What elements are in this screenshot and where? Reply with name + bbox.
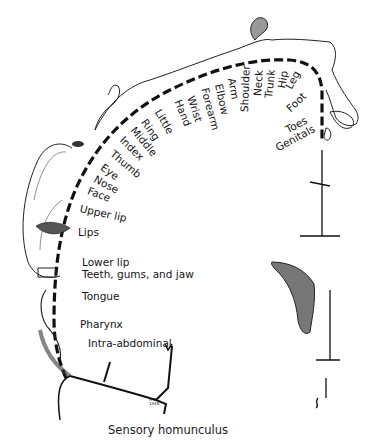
figure-caption: Sensory homunculus — [108, 423, 228, 437]
nerve-branch-left — [58, 376, 70, 420]
initials-line-2: 1948 — [149, 402, 161, 406]
genitals-shape — [324, 128, 331, 140]
visceral-shape — [271, 262, 314, 334]
sensory-homunculus-figure: Toes Genitals Foot Leg Hip Trunk Neck Sh… — [0, 0, 374, 447]
label-lips: Lips — [78, 226, 99, 238]
head-shape — [251, 18, 268, 40]
eye-shape — [72, 141, 84, 147]
label-teeth-gums-jaw: Teeth, gums, and jaw — [82, 268, 194, 280]
label-intra-abdominal: Intra-abdominal — [88, 337, 172, 349]
label-neck: Neck — [251, 69, 265, 96]
spinal-segment-1 — [300, 150, 340, 236]
label-tongue: Tongue — [82, 290, 120, 302]
homunculus-drawing — [0, 0, 374, 447]
label-lower-lip: Lower lip — [82, 256, 129, 268]
face-outline — [23, 144, 72, 277]
label-pharynx: Pharynx — [80, 318, 123, 330]
spinal-segment-2 — [316, 290, 340, 360]
spinal-fragment — [316, 378, 326, 408]
artist-initials: H.T.C. 1948 — [149, 398, 161, 406]
